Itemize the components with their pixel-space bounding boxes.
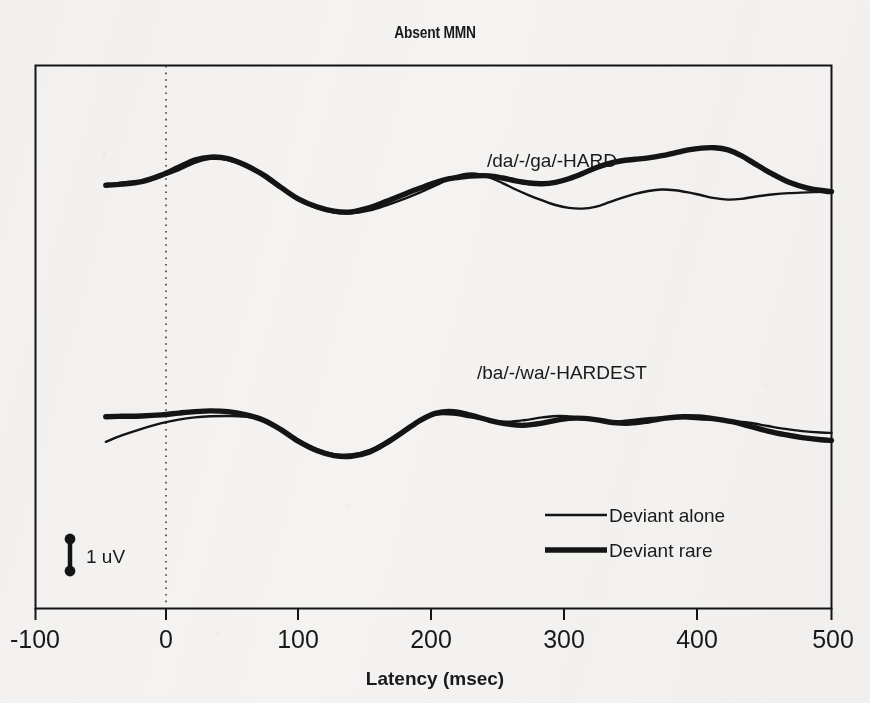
legend: Deviant alone Deviant rare: [545, 505, 725, 561]
waveform-plot: -100 0 100 200 300 400 500 Latency (msec…: [0, 0, 870, 703]
x-tick-label: -100: [10, 625, 60, 653]
waveform-trace: [106, 148, 832, 212]
legend-label-deviant-alone: Deviant alone: [609, 505, 725, 526]
trace-label-upper: /da/-/ga/-HARD: [487, 150, 617, 171]
x-axis-ticks: [36, 608, 832, 620]
legend-item-deviant-rare: Deviant rare: [545, 540, 713, 561]
scale-bar-label: 1 uV: [86, 546, 125, 567]
x-tick-label: 300: [543, 625, 585, 653]
amplitude-scale-bar: 1 uV: [65, 534, 126, 577]
x-tick-label: 0: [159, 625, 173, 653]
legend-label-deviant-rare: Deviant rare: [609, 540, 713, 561]
scale-bar-cap-top: [65, 534, 76, 545]
scale-bar-cap-bottom: [65, 566, 76, 577]
waveform-trace: [106, 159, 832, 214]
legend-item-deviant-alone: Deviant alone: [545, 505, 725, 526]
x-tick-label: 400: [676, 625, 718, 653]
x-axis-title: Latency (msec): [366, 668, 504, 689]
trace-label-lower: /ba/-/wa/-HARDEST: [477, 362, 647, 383]
waveform-traces: [106, 148, 832, 457]
x-tick-label: 100: [277, 625, 319, 653]
x-tick-label: 500: [812, 625, 854, 653]
x-axis-tick-labels: -100 0 100 200 300 400 500: [10, 625, 854, 653]
erp-figure: Absent MMN -100 0 100 200 300 400 500 La…: [0, 0, 870, 703]
x-tick-label: 200: [410, 625, 452, 653]
